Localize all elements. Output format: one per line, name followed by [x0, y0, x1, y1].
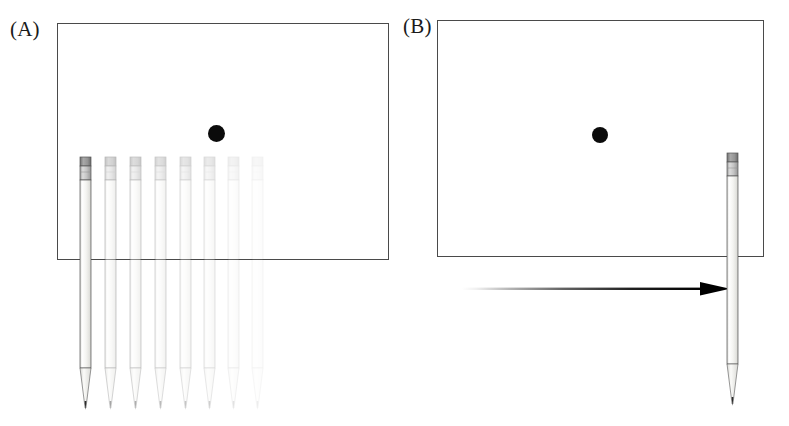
pencil-ghost-8 — [250, 156, 265, 411]
figure-root: (A) (B) — [0, 0, 789, 426]
pencil-ghost-5 — [178, 156, 193, 411]
target-dot-b — [592, 127, 608, 143]
pencil-ghost-2 — [103, 156, 118, 411]
pencil-primary-b — [725, 152, 740, 407]
panel-b-label: (B) — [403, 16, 432, 37]
pencil-ghost-7 — [226, 156, 241, 411]
pencil-ghost-4 — [153, 156, 168, 411]
pencil-primary-a — [78, 156, 93, 411]
motion-arrow-icon — [462, 278, 732, 300]
panel-a-label: (A) — [10, 19, 40, 40]
pencil-ghost-6 — [202, 156, 217, 411]
target-dot-a — [208, 125, 225, 142]
pencil-ghost-3 — [128, 156, 143, 411]
